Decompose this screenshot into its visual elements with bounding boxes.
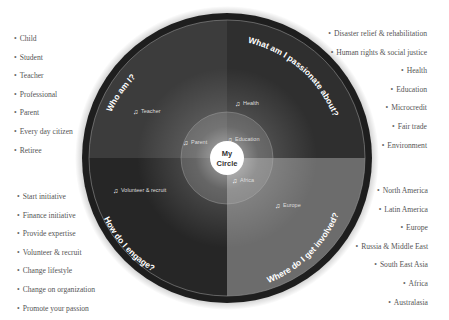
marker-label: Parent [191,139,208,145]
marker-label: Africa [240,177,255,183]
marker-label: Health [243,100,259,106]
person-marker-icon: ♫ [232,177,237,184]
center-circle [210,141,244,175]
marker-label: Education [235,136,259,142]
marker-label: Europe [283,202,301,208]
marker-education: ♫ Education [227,136,259,143]
center-label-line2: Circle [217,159,238,168]
person-marker-icon: ♫ [235,100,240,107]
person-marker-icon: ♫ [113,187,118,194]
person-marker-icon: ♫ [183,139,188,146]
marker-volunteer: ♫ Volunteer & recruit [113,187,167,194]
marker-africa: ♫ Africa [232,177,255,184]
center-label-line1: My [222,149,233,158]
marker-health: ♫ Health [235,100,259,107]
my-circle-diagram: My Circle Who am I? What am I passionate… [0,0,449,320]
person-marker-icon: ♫ [275,202,280,209]
marker-parent: ♫ Parent [183,139,208,146]
marker-label: Volunteer & recruit [121,187,167,193]
marker-teacher: ♫ Teacher [133,108,161,115]
marker-label: Teacher [141,108,161,114]
marker-europe: ♫ Europe [275,202,301,209]
person-marker-icon: ♫ [227,136,232,143]
person-marker-icon: ♫ [133,108,138,115]
